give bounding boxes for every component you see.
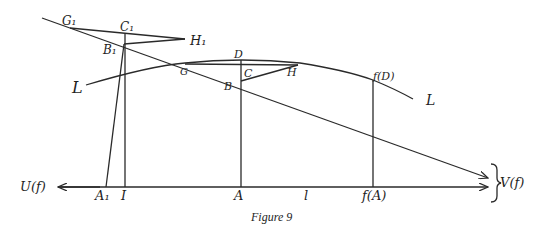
slant-A1-B1 (106, 44, 124, 187)
label-fA: f(A) (361, 188, 386, 203)
label-G1: G₁ (62, 14, 76, 28)
label-U: U(f) (20, 179, 46, 194)
label-L-left: L (71, 78, 83, 97)
segment-B1-H1 (124, 39, 185, 44)
label-A: A (233, 188, 243, 203)
label-H: H (286, 66, 297, 79)
label-fD: f(D) (372, 70, 394, 83)
label-C1: C₁ (120, 20, 134, 34)
label-D: D (233, 48, 243, 61)
label-A1: A₁ (94, 188, 110, 203)
label-l: l (304, 188, 308, 203)
label-C: C (244, 67, 253, 80)
figure-9-diagram: G₁ C₁ H₁ B₁ D G C H B f(D) L L U(f) V(f)… (0, 0, 547, 233)
label-I: I (120, 188, 127, 203)
diagonal-line (42, 18, 488, 178)
label-H1: H₁ (189, 33, 207, 48)
label-L-right: L (425, 92, 435, 108)
label-V: V(f) (500, 175, 524, 190)
label-B: B (223, 80, 232, 93)
figure-caption: Figure 9 (250, 210, 292, 224)
label-G: G (180, 66, 188, 77)
label-B1: B₁ (102, 43, 117, 57)
